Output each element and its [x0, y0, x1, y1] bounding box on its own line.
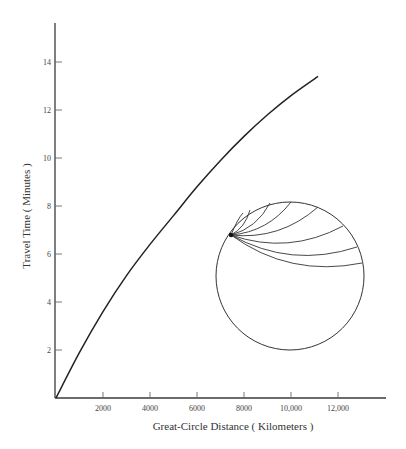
x-axis-label: Great-Circle Distance ( Kilometers ) [153, 420, 314, 433]
seismic-ray-path [231, 203, 270, 235]
y-tick-label: 2 [47, 346, 51, 355]
y-axis-label: Travel Time ( Minutes ) [20, 163, 33, 269]
travel-time-chart: 2468101214 200040006000800010,00012,000 … [0, 0, 406, 449]
travel-time-line [56, 76, 318, 398]
x-tick-label: 8000 [236, 404, 252, 413]
x-axis: 200040006000800010,00012,000 [55, 392, 386, 413]
earth-circle [216, 202, 364, 350]
y-tick-label: 8 [47, 202, 51, 211]
y-tick-label: 4 [47, 298, 51, 307]
seismic-ray-path [231, 207, 318, 236]
y-axis: 2468101214 [43, 23, 62, 398]
y-tick-label: 14 [43, 58, 51, 67]
travel-time-curve [56, 76, 318, 398]
y-tick-label: 6 [47, 250, 51, 259]
seismic-ray-path [231, 235, 357, 255]
source-point-marker [229, 233, 233, 237]
y-tick-label: 12 [43, 106, 51, 115]
y-tick-label: 10 [43, 154, 51, 163]
x-tick-label: 12,000 [327, 404, 349, 413]
seismic-ray-path [231, 226, 343, 243]
x-tick-label: 4000 [142, 404, 158, 413]
x-tick-label: 6000 [189, 404, 205, 413]
x-tick-label: 2000 [95, 404, 111, 413]
x-tick-label: 10,000 [280, 404, 302, 413]
seismic-ray-path [231, 202, 291, 235]
earth-ray-inset [216, 202, 364, 350]
